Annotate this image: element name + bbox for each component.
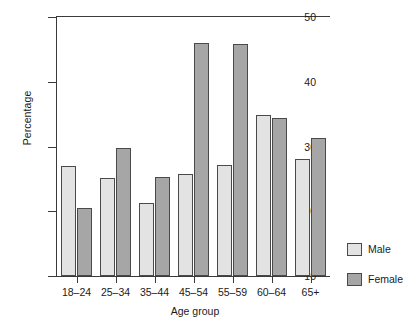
bar-female-2 — [155, 177, 171, 276]
bar-female-5 — [272, 118, 288, 276]
bar-female-3 — [194, 43, 210, 276]
x-axis-tick — [311, 276, 312, 283]
bar-male-3 — [178, 174, 194, 276]
legend-item-male: Male — [347, 238, 413, 260]
bar-male-1 — [100, 178, 116, 276]
bar-male-6 — [295, 159, 311, 276]
bar-male-2 — [139, 203, 155, 276]
y-axis-tick — [48, 82, 57, 83]
bar-female-0 — [77, 208, 93, 276]
bar-female-4 — [233, 44, 249, 276]
y-axis-title: Percentage — [21, 58, 33, 178]
y-axis-tick — [48, 17, 57, 18]
legend-swatch-female — [347, 273, 362, 286]
y-axis-tick-label: 50 — [276, 11, 316, 23]
y-axis-tick-label: 40 — [276, 76, 316, 88]
y-axis-tick — [48, 276, 57, 277]
legend-item-female: Female — [347, 268, 413, 290]
bar-male-5 — [256, 115, 272, 276]
bar-male-0 — [61, 166, 77, 276]
x-axis-tick — [77, 276, 78, 283]
x-axis-tick — [155, 276, 156, 283]
bar-male-4 — [217, 165, 233, 276]
y-axis-tick — [48, 147, 57, 148]
chart-legend: MaleFemale — [347, 238, 413, 298]
x-axis-tick — [194, 276, 195, 283]
x-axis-tick — [116, 276, 117, 283]
x-axis-tick-label: 65+ — [281, 286, 341, 298]
x-axis-title: Age group — [55, 305, 335, 317]
x-axis-tick — [272, 276, 273, 283]
bar-female-1 — [116, 148, 132, 276]
legend-swatch-male — [347, 243, 362, 256]
plot-area: 102030405018–2425–3435–4445–5455–5960–64… — [56, 16, 330, 277]
legend-label-male: Male — [368, 243, 391, 255]
y-axis-tick — [48, 211, 57, 212]
legend-label-female: Female — [368, 273, 403, 285]
x-axis-tick — [233, 276, 234, 283]
bar-chart: Percentage 102030405018–2425–3435–4445–5… — [0, 0, 413, 329]
bar-female-6 — [311, 138, 327, 276]
